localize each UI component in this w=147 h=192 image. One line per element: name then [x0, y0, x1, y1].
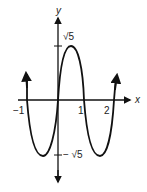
plot: y x √5 − √5 −1 1 2 — [0, 0, 147, 192]
y-axis-label: y — [55, 5, 62, 16]
tick-label-neg1: −1 — [13, 105, 25, 116]
tick-label-neg-sqrt5: − √5 — [63, 149, 83, 160]
curve — [27, 46, 116, 156]
left-arrow — [26, 73, 27, 88]
tick-label-2: 2 — [104, 105, 110, 116]
tick-label-sqrt5: √5 — [63, 31, 74, 42]
x-axis-label: x — [134, 94, 141, 105]
tick-label-1: 1 — [78, 105, 84, 116]
